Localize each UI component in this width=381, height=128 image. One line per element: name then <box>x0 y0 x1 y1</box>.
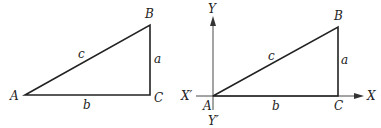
triangle-right-shape <box>213 27 338 96</box>
side-c-label: c <box>268 49 275 63</box>
side-a-label: a <box>341 53 348 67</box>
y-axis-label: Y <box>208 2 217 16</box>
y-neg-axis-label: Y′ <box>208 114 219 128</box>
triangle-right: Y Y′ X X′ A B C a b c <box>180 2 376 128</box>
side-b-label: b <box>83 98 91 112</box>
vertex-c-label: C <box>334 99 343 113</box>
y-axis-arrow-icon <box>210 16 216 26</box>
triangle-left-shape <box>25 25 150 95</box>
x-neg-axis-label: X′ <box>180 89 193 103</box>
x-axis-label: X <box>366 89 376 103</box>
vertex-a-label: A <box>202 99 212 113</box>
diagram-canvas: A B C a b c Y Y′ X X′ A B C a b c <box>0 0 381 128</box>
side-b-label: b <box>272 99 280 113</box>
side-a-label: a <box>154 52 161 66</box>
vertex-a-label: A <box>9 89 19 103</box>
side-c-label: c <box>78 47 85 61</box>
vertex-c-label: C <box>154 91 163 105</box>
vertex-b-label: B <box>333 9 343 23</box>
x-axis-arrow-icon <box>354 93 364 99</box>
triangle-left: A B C a b c <box>9 7 163 112</box>
vertex-b-label: B <box>144 7 154 21</box>
